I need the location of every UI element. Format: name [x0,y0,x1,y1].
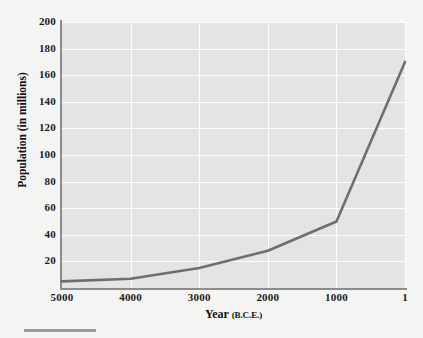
x-axis-tick-labels: 500040003000200010001 [0,0,423,338]
x-tick-label: 1 [402,291,408,303]
x-axis-title-era: (B.C.E.) [232,310,262,320]
population-line-chart-figure: 20406080100120140160180200 5000400030002… [0,0,423,338]
x-tick-label: 4000 [119,291,142,303]
y-axis-title: Population (in millions) [16,30,28,230]
caption-rule [24,329,96,332]
x-tick-label: 1000 [325,291,348,303]
x-axis-title: Year (B.C.E.) [62,307,405,322]
x-tick-label: 3000 [188,291,211,303]
x-tick-label: 5000 [51,291,74,303]
x-tick-label: 2000 [256,291,279,303]
x-axis-title-main: Year [205,307,229,321]
